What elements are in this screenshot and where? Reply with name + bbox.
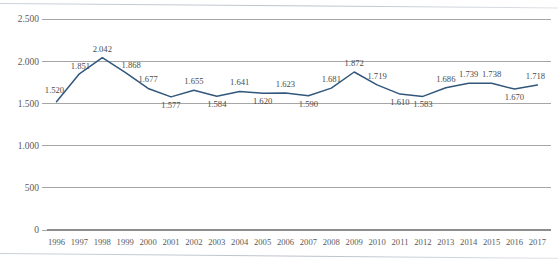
data-point-label: 1.686	[436, 74, 456, 84]
data-point-label: 1.623	[276, 79, 295, 89]
data-point-label: 1.718	[526, 71, 545, 81]
x-axis-tick-label: 2017	[529, 237, 547, 247]
data-point-label: 2.042	[93, 44, 112, 54]
x-axis-tick-label: 2000	[140, 237, 157, 247]
data-point-label: 1.677	[138, 74, 158, 84]
x-axis-tick-label: 2012	[414, 237, 431, 247]
data-point-label: 1.655	[184, 76, 203, 86]
data-point-label: 1.610	[390, 97, 409, 107]
x-axis-tick-label: 1998	[94, 237, 111, 247]
x-axis-tick-label: 2008	[323, 237, 340, 247]
chart-container: 05001.0001.5002.0002.500 199619971998199…	[0, 0, 558, 266]
x-axis-tick-label: 2014	[460, 237, 478, 247]
data-point-label: 1.590	[299, 99, 318, 109]
y-axis-tick-label: 500	[25, 183, 40, 193]
data-point-label: 1.520	[45, 85, 64, 95]
y-axis-tick-label: 0	[34, 225, 39, 235]
data-point-labels: 1.5201.8512.0421.8681.6771.5771.6551.584…	[45, 44, 545, 110]
x-axis-tick-label: 1997	[71, 237, 89, 247]
data-point-label: 1.681	[322, 74, 341, 84]
y-axis-tick-labels: 05001.0001.5002.0002.500	[18, 14, 40, 235]
x-axis-tick-label: 2015	[483, 237, 500, 247]
x-axis-tick-label: 1996	[48, 237, 66, 247]
gridlines	[42, 19, 551, 230]
y-axis-tick-label: 2.000	[18, 57, 40, 67]
data-point-label: 1.641	[230, 77, 249, 87]
x-axis-tick-label: 2009	[346, 237, 363, 247]
x-axis-tick-label: 2001	[162, 237, 179, 247]
x-axis-tick-label: 2005	[254, 237, 271, 247]
x-axis-tick-label: 2013	[437, 237, 454, 247]
x-axis-tick-label: 2016	[506, 237, 524, 247]
data-point-label: 1.583	[413, 99, 432, 109]
y-axis-tick-label: 2.500	[18, 14, 40, 24]
y-axis-tick-label: 1.500	[18, 99, 40, 109]
data-point-label: 1.868	[122, 60, 141, 70]
data-point-label: 1.851	[71, 61, 90, 71]
x-axis-tick-label: 2003	[208, 237, 225, 247]
y-axis-tick-label: 1.000	[18, 141, 40, 151]
data-point-label: 1.872	[345, 58, 364, 68]
data-point-label: 1.670	[505, 92, 524, 102]
x-axis-tick-label: 2010	[369, 237, 386, 247]
x-axis-tick-label: 2006	[277, 237, 295, 247]
data-point-label: 1.584	[207, 99, 227, 109]
x-axis-tick-labels: 1996199719981999200020012002200320042005…	[48, 237, 547, 247]
x-axis-tick-label: 2002	[185, 237, 202, 247]
data-point-label: 1.739	[459, 69, 478, 79]
line-chart: 05001.0001.5002.0002.500 199619971998199…	[0, 0, 558, 266]
data-point-label: 1.577	[161, 100, 181, 110]
x-axis-tick-label: 2011	[392, 237, 409, 247]
x-axis-tick-label: 2004	[231, 237, 249, 247]
data-point-label: 1.719	[367, 71, 386, 81]
x-axis-tick-label: 2007	[300, 237, 318, 247]
data-point-label: 1.738	[482, 69, 501, 79]
data-point-label: 1.620	[253, 96, 272, 106]
x-axis-tick-label: 1999	[117, 237, 134, 247]
